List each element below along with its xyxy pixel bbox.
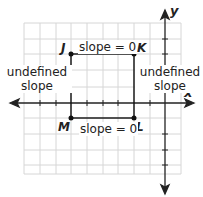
left-slope-line2: slope	[3, 79, 71, 93]
y-axis-label: y	[170, 4, 178, 18]
x-axis-left-arrow-icon	[10, 99, 19, 107]
axes	[10, 10, 194, 194]
coordinate-plane	[0, 0, 203, 197]
right-slope-line2: slope	[136, 79, 203, 93]
x-axis-right-arrow-icon	[185, 99, 194, 107]
point-k-label: K	[137, 41, 146, 55]
left-slope-line1: undefined	[3, 65, 71, 79]
y-axis-up-arrow-icon	[161, 10, 169, 19]
right-slope-line1: undefined	[136, 65, 203, 79]
right-slope-label: undefined slope	[135, 65, 203, 93]
point-j	[69, 52, 74, 57]
point-m-label: M	[58, 120, 70, 134]
left-slope-label: undefined slope	[2, 65, 72, 93]
bottom-slope-label: slope = 0	[79, 122, 138, 136]
y-axis-down-arrow-icon	[161, 185, 169, 194]
top-slope-label: slope = 0	[78, 40, 137, 54]
point-j-label: J	[61, 41, 65, 55]
